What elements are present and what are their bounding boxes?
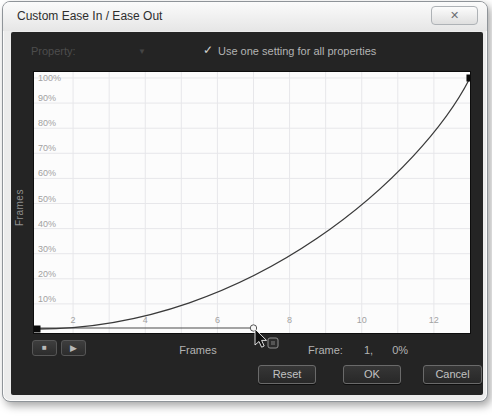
cursor-badge — [268, 338, 278, 348]
frame-readout: Frame: 1, 0% — [308, 344, 408, 356]
ok-button[interactable]: OK — [343, 365, 401, 384]
x-axis-title: Frames — [158, 344, 238, 356]
ease-curve-graph[interactable]: 100%90%80%70%60%50%40%30%20%10%24681012 — [33, 71, 471, 334]
x-tick-label: 12 — [429, 315, 439, 325]
percent-readout-value: 0% — [392, 344, 408, 356]
y-tick-label: 90% — [38, 93, 56, 103]
keyframe-point[interactable] — [34, 326, 41, 333]
play-icon: ▶ — [70, 343, 77, 353]
use-one-setting-label: Use one setting for all properties — [218, 45, 376, 57]
keyframe-point[interactable] — [466, 75, 470, 82]
y-tick-label: 70% — [38, 143, 56, 153]
dialog-title: Custom Ease In / Ease Out — [17, 2, 162, 31]
play-button[interactable]: ▶ — [61, 340, 86, 356]
y-tick-label: 50% — [38, 194, 56, 204]
reset-button[interactable]: Reset — [258, 365, 316, 384]
x-tick-label: 10 — [357, 315, 367, 325]
y-tick-label: 80% — [38, 118, 56, 128]
y-tick-label: 30% — [38, 244, 56, 254]
x-tick-label: 6 — [215, 315, 220, 325]
dialog-body-panel: Property: ▼ ✓ Use one setting for all pr… — [11, 32, 483, 395]
y-tick-label: 40% — [38, 219, 56, 229]
y-tick-label: 60% — [38, 168, 56, 178]
titlebar[interactable]: Custom Ease In / Ease Out ✕ — [3, 2, 487, 31]
y-tick-label: 20% — [38, 269, 56, 279]
close-icon: ✕ — [450, 9, 459, 21]
use-one-setting-checkbox[interactable]: ✓ — [203, 43, 213, 57]
y-tick-label: 100% — [38, 73, 61, 83]
stop-button[interactable]: ■ — [32, 340, 57, 356]
frame-readout-label: Frame: — [308, 344, 343, 356]
y-tick-label: 10% — [38, 294, 56, 304]
bezier-handle-point[interactable] — [250, 325, 256, 331]
x-tick-label: 2 — [71, 315, 76, 325]
frame-readout-value: 1, — [364, 344, 373, 356]
ease-curve-canvas[interactable]: 100%90%80%70%60%50%40%30%20%10%24681012 — [34, 72, 470, 333]
cancel-button[interactable]: Cancel — [423, 365, 482, 384]
custom-ease-dialog: Custom Ease In / Ease Out ✕ Property: ▼ … — [2, 1, 488, 402]
x-tick-label: 8 — [287, 315, 292, 325]
property-dropdown[interactable]: ▼ — [138, 47, 146, 56]
stop-icon: ■ — [42, 343, 47, 352]
checkmark-icon: ✓ — [203, 43, 213, 57]
screen: Custom Ease In / Ease Out ✕ Property: ▼ … — [0, 0, 492, 417]
y-axis-title: Frames — [14, 150, 28, 266]
chevron-down-icon: ▼ — [138, 47, 146, 56]
close-button[interactable]: ✕ — [431, 6, 478, 25]
property-label: Property: — [31, 45, 76, 57]
